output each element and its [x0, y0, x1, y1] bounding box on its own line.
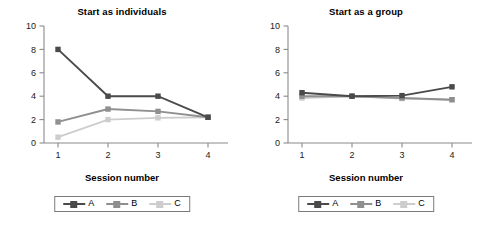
- x-tick-label: 4: [205, 150, 210, 160]
- legend-label: A: [88, 199, 94, 208]
- plot-area-individuals: 02468101234: [0, 18, 244, 177]
- data-point-marker: [155, 94, 160, 99]
- series-line: [302, 87, 452, 96]
- chart-panel-group: Start as a group 02468101234 Session num…: [244, 0, 488, 234]
- data-point-marker: [105, 117, 110, 122]
- chart-panel-individuals: Start as individuals 02468101234 Session…: [0, 0, 244, 234]
- y-tick-label: 8: [31, 45, 36, 55]
- legend-marker-b-icon: [106, 199, 128, 208]
- chart-svg: 02468101234: [0, 18, 244, 173]
- legend-label: C: [418, 199, 425, 208]
- legend-label: B: [131, 199, 137, 208]
- legend-square-swatch: [357, 201, 364, 208]
- y-tick-label: 10: [270, 21, 280, 31]
- data-point-marker: [205, 115, 210, 120]
- legend-entry-b: B: [106, 199, 137, 208]
- legend-square-swatch: [156, 201, 163, 208]
- legend-square-swatch: [314, 201, 321, 208]
- chart-title-individuals: Start as individuals: [0, 6, 244, 17]
- data-point-marker: [449, 97, 454, 102]
- y-tick-label: 0: [31, 138, 36, 148]
- data-point-marker: [299, 90, 304, 95]
- legend-label: B: [375, 199, 381, 208]
- legend-entry-c: C: [393, 199, 425, 208]
- data-point-marker: [349, 94, 354, 99]
- chart-title-group: Start as a group: [244, 6, 488, 17]
- legend-group: ABC: [298, 196, 434, 212]
- data-point-marker: [399, 93, 404, 98]
- data-point-marker: [155, 115, 160, 120]
- series-a: [55, 47, 210, 120]
- data-point-marker: [55, 47, 60, 52]
- y-tick-label: 2: [31, 115, 36, 125]
- y-tick-label: 2: [275, 115, 280, 125]
- series-line: [58, 49, 208, 117]
- legend-entry-a: A: [307, 199, 338, 208]
- data-point-marker: [155, 109, 160, 114]
- y-tick-label: 8: [275, 45, 280, 55]
- legend-entry-a: A: [63, 199, 94, 208]
- x-tick-label: 3: [155, 150, 160, 160]
- y-tick-label: 0: [275, 138, 280, 148]
- x-tick-label: 4: [449, 150, 454, 160]
- data-point-marker: [105, 106, 110, 111]
- y-tick-label: 6: [31, 68, 36, 78]
- plot-area-group: 02468101234: [244, 18, 488, 177]
- series-line: [58, 117, 208, 137]
- series-c: [55, 115, 210, 140]
- x-tick-label: 1: [55, 150, 60, 160]
- two-panel-line-chart-figure: Start as individuals 02468101234 Session…: [0, 0, 488, 234]
- legend-marker-a-icon: [307, 199, 329, 208]
- y-tick-label: 4: [275, 91, 280, 101]
- x-tick-label: 2: [105, 150, 110, 160]
- legend-label: A: [332, 199, 338, 208]
- x-axis-label-group: Session number: [244, 172, 488, 183]
- series-line: [58, 109, 208, 122]
- data-point-marker: [55, 119, 60, 124]
- legend-square-swatch: [113, 201, 120, 208]
- y-tick-label: 4: [31, 91, 36, 101]
- legend-entry-b: B: [350, 199, 381, 208]
- data-point-marker: [105, 94, 110, 99]
- data-point-marker: [449, 84, 454, 89]
- x-tick-label: 1: [299, 150, 304, 160]
- x-tick-label: 2: [349, 150, 354, 160]
- legend-marker-c-icon: [149, 199, 171, 208]
- y-tick-label: 6: [275, 68, 280, 78]
- x-tick-label: 3: [399, 150, 404, 160]
- legend-square-swatch: [400, 201, 407, 208]
- legend-square-swatch: [70, 201, 77, 208]
- legend-marker-c-icon: [393, 199, 415, 208]
- data-point-marker: [55, 134, 60, 139]
- y-tick-label: 10: [26, 21, 36, 31]
- legend-marker-b-icon: [350, 199, 372, 208]
- legend-individuals: ABC: [54, 196, 190, 212]
- x-axis-label-individuals: Session number: [0, 172, 244, 183]
- legend-entry-c: C: [149, 199, 181, 208]
- legend-marker-a-icon: [63, 199, 85, 208]
- legend-label: C: [174, 199, 181, 208]
- chart-svg: 02468101234: [244, 18, 488, 173]
